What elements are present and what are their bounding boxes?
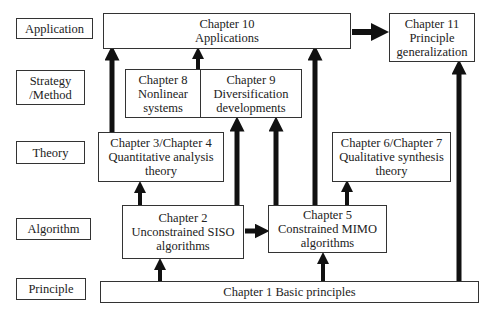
chapter-11-box: Chapter 11 Principle generalization (389, 13, 475, 62)
chapter-10-box: Chapter 10 Applications (103, 13, 351, 49)
level-application: Application (16, 18, 93, 39)
chapter-1-box: Chapter 1 Basic principles (100, 281, 479, 303)
chapter-8-cell: Chapter 8 Nonlinear systems (126, 70, 201, 117)
level-algorithm: Algorithm (16, 218, 91, 240)
level-principle: Principle (16, 278, 86, 300)
chapter-8-9-box: Chapter 8 Nonlinear systems Chapter 9 Di… (125, 69, 302, 118)
chapter-3-4-box: Chapter 3/Chapter 4 Quantitative analysi… (98, 132, 224, 182)
chapter-9-cell: Chapter 9 Diversification developments (201, 70, 301, 117)
chapter-2-box: Chapter 2 Unconstrained SISO algorithms (122, 205, 244, 259)
chapter-5-box: Chapter 5 Constrained MIMO algorithms (268, 205, 387, 253)
level-strategy-method: Strategy /Method (16, 70, 85, 105)
chapter-6-7-box: Chapter 6/Chapter 7 Qualitative synthesi… (332, 132, 451, 182)
level-theory: Theory (16, 141, 85, 164)
